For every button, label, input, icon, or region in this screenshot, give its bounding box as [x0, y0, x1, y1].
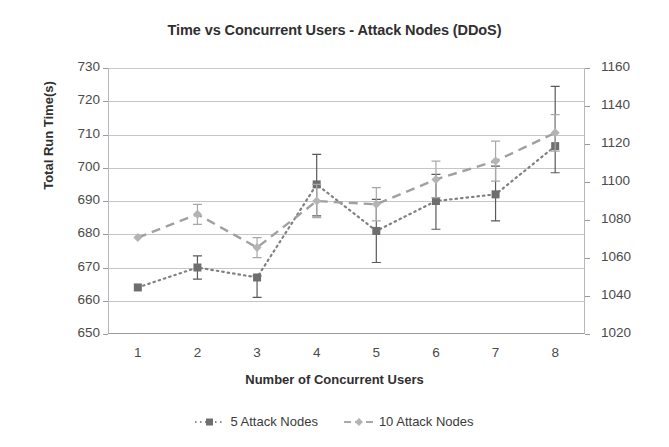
y-axis-tick-label: 690	[38, 192, 100, 207]
diamond-marker-icon	[372, 200, 381, 209]
x-axis-tick-label: 1	[118, 345, 158, 360]
legend-item[interactable]: 5 Attack Nodes	[195, 414, 317, 429]
y-axis-tick-label: 730	[38, 59, 100, 74]
diamond-marker-icon	[344, 416, 374, 428]
legend-label: 10 Attack Nodes	[379, 414, 474, 429]
data-series	[134, 86, 560, 297]
chart-legend: 5 Attack Nodes10 Attack Nodes	[0, 414, 669, 429]
y2-axis-tick-mark	[585, 68, 590, 69]
y2-axis-tick-label: 1080	[601, 211, 663, 226]
diamond-marker-icon	[133, 233, 142, 242]
square-marker-icon	[134, 283, 142, 291]
y2-axis-tick-label: 1160	[601, 59, 663, 74]
y2-axis-tick-mark	[585, 334, 590, 335]
chart-figure: Time vs Concurrent Users - Attack Nodes …	[0, 0, 669, 447]
x-axis-tick-label: 5	[356, 345, 396, 360]
y-axis-tick-label: 650	[38, 325, 100, 340]
y2-axis-tick-label: 1140	[601, 97, 663, 112]
x-axis-tick-label: 4	[297, 345, 337, 360]
x-axis-tick-label: 2	[177, 345, 217, 360]
plot-area	[108, 68, 585, 334]
legend-item[interactable]: 10 Attack Nodes	[344, 414, 474, 429]
y2-axis-tick-mark	[585, 182, 590, 183]
diamond-marker-icon	[193, 210, 202, 219]
x-axis-title: Number of Concurrent Users	[0, 372, 669, 387]
y-axis-tick-label: 720	[38, 92, 100, 107]
y2-axis-tick-mark	[585, 296, 590, 297]
square-marker-icon	[372, 227, 380, 235]
y-axis-tick-label: 680	[38, 225, 100, 240]
y-axis-tick-label: 670	[38, 259, 100, 274]
diamond-marker-icon	[431, 175, 440, 184]
y2-axis-tick-label: 1060	[601, 249, 663, 264]
series-layer	[108, 68, 585, 334]
y2-axis-tick-mark	[585, 258, 590, 259]
y2-axis-tick-mark	[585, 144, 590, 145]
y-axis-tick-label: 700	[38, 159, 100, 174]
series-line	[138, 133, 555, 248]
y2-axis-tick-label: 1020	[601, 325, 663, 340]
chart-title: Time vs Concurrent Users - Attack Nodes …	[0, 22, 669, 38]
y2-axis-tick-label: 1120	[601, 135, 663, 150]
x-axis-tick-label: 3	[237, 345, 277, 360]
square-marker-icon	[195, 416, 225, 428]
x-axis-tick-label: 8	[535, 345, 575, 360]
square-marker-icon	[492, 190, 500, 198]
x-axis-tick-label: 7	[476, 345, 516, 360]
y2-axis-tick-label: 1100	[601, 173, 663, 188]
y-axis-tick-label: 660	[38, 292, 100, 307]
square-marker-icon	[193, 264, 201, 272]
x-axis-tick-label: 6	[416, 345, 456, 360]
y2-axis-tick-label: 1040	[601, 287, 663, 302]
y-axis-tick-mark	[103, 334, 108, 335]
diamond-marker-icon	[551, 128, 560, 137]
square-marker-icon	[253, 273, 261, 281]
y2-axis-tick-mark	[585, 106, 590, 107]
diamond-marker-icon	[491, 157, 500, 166]
y2-axis-tick-mark	[585, 220, 590, 221]
y-axis-tick-label: 710	[38, 126, 100, 141]
legend-label: 5 Attack Nodes	[230, 414, 317, 429]
